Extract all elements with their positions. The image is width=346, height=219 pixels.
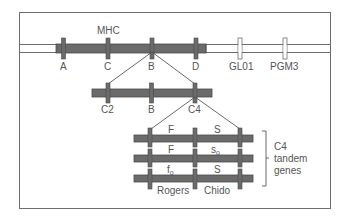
svg-text:F: F	[168, 144, 174, 155]
mhc-title: MHC	[97, 25, 120, 36]
expansion-line-left	[108, 52, 152, 84]
marker-B: B	[148, 38, 155, 72]
svg-text:C4: C4	[188, 104, 201, 115]
rogers-label: Rogers	[157, 185, 189, 196]
svg-text:S: S	[214, 124, 221, 135]
mhc-diagram: MHC A C B D GL01 PGM3 C2 B	[0, 0, 346, 219]
svg-text:A: A	[60, 61, 67, 72]
tandem-bracket	[262, 131, 269, 186]
svg-text:GL01: GL01	[229, 61, 254, 72]
marker-C: C	[104, 38, 111, 72]
marker-C2: C2	[101, 83, 114, 115]
mhc-segment	[56, 44, 206, 53]
svg-text:C2: C2	[101, 104, 114, 115]
marker-PGM3: PGM3	[270, 38, 299, 72]
svg-text:PGM3: PGM3	[270, 61, 299, 72]
svg-text:S: S	[214, 164, 221, 175]
chromosome-left-white	[20, 45, 57, 53]
svg-text:F: F	[168, 124, 174, 135]
expansion-line-right	[152, 52, 195, 84]
marker-D: D	[192, 38, 199, 72]
marker-GL01: GL01	[229, 38, 254, 72]
svg-text:B: B	[148, 104, 155, 115]
svg-text:fo: fo	[167, 164, 174, 176]
bracket-label-1: C4	[274, 141, 287, 152]
svg-text:C: C	[104, 61, 111, 72]
svg-text:B: B	[148, 61, 155, 72]
marker-A: A	[60, 38, 67, 72]
marker-B2: B	[148, 83, 155, 115]
chido-label: Chido	[204, 185, 231, 196]
chromosome-right-white	[206, 45, 331, 53]
svg-text:D: D	[192, 61, 199, 72]
bracket-label-2: tandem	[274, 153, 307, 164]
marker-C4: C4	[188, 83, 201, 115]
bracket-label-3: genes	[274, 165, 301, 176]
svg-text:so: so	[211, 144, 220, 156]
